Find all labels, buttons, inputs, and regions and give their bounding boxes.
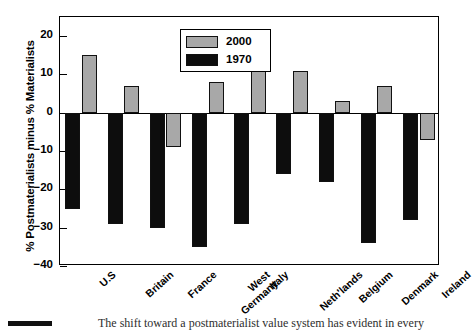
y-axis-tick <box>60 74 67 75</box>
legend-swatch-2000-icon <box>186 36 218 48</box>
bar-2000-U.S <box>82 55 97 112</box>
x-axis-tick-label: Denmark <box>400 269 441 308</box>
bar-1970-Neth'lands <box>276 113 291 174</box>
bar-2000-Denmark <box>377 86 392 113</box>
bar-2000-Belgium <box>335 101 350 112</box>
bar-1970-West-Germany <box>192 113 207 247</box>
bar-1970-France <box>150 113 165 228</box>
plot-frame: 2000 1970 <box>59 16 439 265</box>
y-axis-tick <box>60 36 67 37</box>
y-axis-tick-label: 0 <box>13 106 53 118</box>
chart-legend: 2000 1970 <box>180 29 271 72</box>
bar-2000-Ireland <box>420 113 435 140</box>
legend-item-1970: 1970 <box>186 52 265 68</box>
bar-1970-Denmark <box>361 113 376 243</box>
bar-1970-Ireland <box>403 113 418 220</box>
x-axis-tick-label: U.S <box>97 269 118 289</box>
bar-2000-Neth'lands <box>293 71 308 113</box>
x-axis-tick-label: France <box>186 269 219 301</box>
y-axis-tick-label: −30 <box>13 221 53 233</box>
y-axis-tick-label: −20 <box>13 182 53 194</box>
bar-1970-U.S <box>65 113 80 209</box>
bar-1970-Britain <box>108 113 123 224</box>
y-axis-tick-label: 10 <box>13 67 53 79</box>
x-axis-tick-label: Ireland <box>439 269 472 301</box>
legend-label-1970: 1970 <box>226 54 252 66</box>
bar-1970-Italy <box>234 113 249 224</box>
x-axis-tick-label: Britain <box>144 269 177 300</box>
bar-1970-Belgium <box>319 113 334 182</box>
x-axis-tick-label: Neth'lands <box>318 269 365 313</box>
bar-2000-Britain <box>124 86 139 113</box>
bar-2000-France <box>166 113 181 147</box>
caption-rule <box>8 321 52 326</box>
legend-label-2000: 2000 <box>226 36 252 48</box>
bar-2000-West-Germany <box>209 82 224 113</box>
y-axis-tick <box>60 266 67 267</box>
caption-strip: The shift toward a postmaterialist value… <box>0 316 449 332</box>
legend-item-2000: 2000 <box>186 34 265 50</box>
y-axis-tick-label: −10 <box>13 144 53 156</box>
y-axis-tick-label: −40 <box>13 259 53 271</box>
y-axis-tick <box>60 228 67 229</box>
y-axis-tick-label: 20 <box>13 29 53 41</box>
caption-text: The shift toward a postmaterialist value… <box>98 316 424 331</box>
legend-swatch-1970-icon <box>186 54 218 66</box>
